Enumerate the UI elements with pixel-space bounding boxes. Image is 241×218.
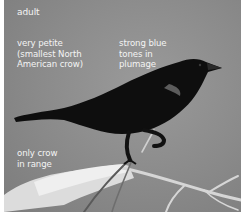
plumage-annotation: strong blue tones in plumage [119, 38, 167, 70]
field-guide-figure: adult very petite (smallest North Americ… [0, 0, 241, 218]
crow-body [14, 59, 222, 134]
crow-photo: adult very petite (smallest North Americ… [4, 0, 241, 212]
crow-illustration [4, 0, 241, 212]
range-annotation: only crow in range [17, 148, 57, 169]
age-label: adult [17, 7, 39, 18]
size-annotation: very petite (smallest North American cro… [17, 38, 83, 70]
